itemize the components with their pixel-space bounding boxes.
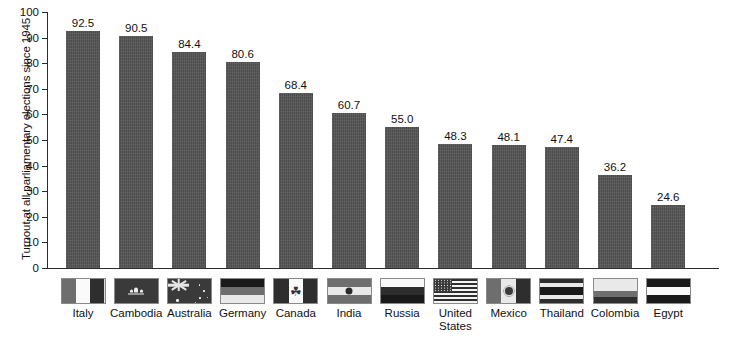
- plot-area: 1009080706050403020100 92.590.584.480.66…: [47, 12, 719, 268]
- bar-chart: Turnout at all parliamentary elections s…: [0, 0, 731, 343]
- y-axis-tick-label: 90: [0, 33, 39, 43]
- y-axis-line: [47, 12, 48, 269]
- flag-russia-icon: [380, 278, 425, 304]
- flag-cell: [380, 278, 425, 304]
- y-axis-tick-label: 50: [0, 135, 39, 145]
- y-axis-tick: [42, 140, 47, 141]
- bar-group: 36.2: [598, 12, 632, 268]
- bar: [492, 145, 526, 268]
- flags-row: ☘: [47, 278, 719, 305]
- bar: [438, 144, 472, 268]
- y-axis-tick: [42, 63, 47, 64]
- bar: [279, 93, 313, 268]
- flag-cell: [61, 278, 106, 304]
- y-axis-tick: [42, 191, 47, 192]
- bar-group: 55.0: [385, 12, 419, 268]
- y-axis-tick-label: 0: [0, 263, 39, 273]
- bar-group: 68.4: [279, 12, 313, 268]
- y-axis-tick-label: 30: [0, 186, 39, 196]
- flag-india-icon: [327, 278, 372, 304]
- bar: [545, 147, 579, 268]
- flag-mexico-icon: [486, 278, 531, 304]
- bar: [598, 175, 632, 268]
- bar-group: 24.6: [651, 12, 685, 268]
- flag-germany-icon: [220, 278, 265, 304]
- y-axis-tick-label: 10: [0, 237, 39, 247]
- page-edge: [0, 336, 731, 343]
- bar-value-label: 36.2: [589, 161, 641, 173]
- y-axis-tick-label: 40: [0, 161, 39, 171]
- flag-cell: [593, 278, 638, 304]
- bar-group: 48.3: [438, 12, 472, 268]
- bar: [651, 205, 685, 268]
- bar: [385, 127, 419, 268]
- bar-value-label: 92.5: [57, 17, 109, 29]
- y-axis-tick: [42, 12, 47, 13]
- flag-egypt-icon: [646, 278, 691, 304]
- y-axis-tick-label: 20: [0, 212, 39, 222]
- bar: [119, 36, 153, 268]
- flag-cell: [486, 278, 531, 304]
- flag-italy-icon: [61, 278, 106, 304]
- flag-cell: ☘: [273, 278, 318, 304]
- bar-value-label: 84.4: [163, 38, 215, 50]
- bar-value-label: 48.1: [483, 131, 535, 143]
- bar-value-label: 47.4: [536, 133, 588, 145]
- y-axis-tick: [42, 166, 47, 167]
- flag-cell: [539, 278, 584, 304]
- flag-canada-icon: ☘: [273, 278, 318, 304]
- y-axis-tick: [42, 38, 47, 39]
- bar-value-label: 68.4: [270, 79, 322, 91]
- flag-united-states-icon: [433, 278, 478, 304]
- bar-value-label: 80.6: [217, 48, 269, 60]
- y-axis-tick: [42, 217, 47, 218]
- y-axis-tick: [42, 268, 47, 269]
- y-axis-tick-label: 80: [0, 58, 39, 68]
- flag-cell: [433, 278, 478, 304]
- flag-colombia-icon: [593, 278, 638, 304]
- country-labels-row: ItalyCambodiaAustraliaGermanyCanadaIndia…: [47, 307, 719, 337]
- bar-group: 48.1: [492, 12, 526, 268]
- flag-cell: [646, 278, 691, 304]
- flag-cell: [114, 278, 159, 304]
- y-axis-tick: [42, 242, 47, 243]
- y-axis-tick: [42, 114, 47, 115]
- flag-cell: [220, 278, 265, 304]
- bar-value-label: 60.7: [323, 99, 375, 111]
- bar-group: 80.6: [226, 12, 260, 268]
- x-axis-line: [47, 268, 719, 269]
- bar: [172, 52, 206, 268]
- bar-value-label: 90.5: [110, 22, 162, 34]
- bar-group: 92.5: [66, 12, 100, 268]
- y-axis-tick-label: 60: [0, 109, 39, 119]
- bar-value-label: 55.0: [376, 113, 428, 125]
- flag-cell: [167, 278, 212, 304]
- y-axis-tick: [42, 89, 47, 90]
- bar-group: 90.5: [119, 12, 153, 268]
- bar: [332, 113, 366, 268]
- flag-cell: [327, 278, 372, 304]
- bar-value-label: 24.6: [642, 191, 694, 203]
- bar-group: 47.4: [545, 12, 579, 268]
- bar-value-label: 48.3: [429, 130, 481, 142]
- country-label: Egypt: [637, 307, 699, 320]
- y-axis-tick-label: 70: [0, 84, 39, 94]
- bar: [226, 62, 260, 268]
- flag-thailand-icon: [539, 278, 584, 304]
- bar-group: 84.4: [172, 12, 206, 268]
- flag-cambodia-icon: [114, 278, 159, 304]
- bar: [66, 31, 100, 268]
- bar-group: 60.7: [332, 12, 366, 268]
- y-axis-tick-label: 100: [0, 7, 39, 17]
- flag-australia-icon: [167, 278, 212, 304]
